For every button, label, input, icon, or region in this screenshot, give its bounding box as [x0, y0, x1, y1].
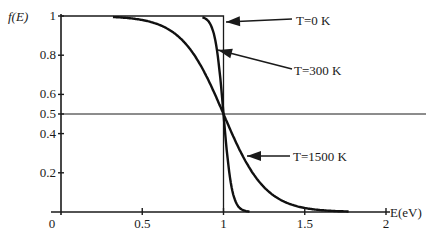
y-tick-label: 0.2	[40, 165, 56, 180]
y-axis-label: f(E)	[8, 9, 28, 24]
y-tick-label: 1	[50, 8, 57, 23]
arrow-t0-arrowhead-icon	[226, 16, 240, 26]
y-tick-label: 0.4	[40, 126, 57, 141]
x-tick-label: 0	[49, 216, 56, 231]
x-tick-label: 2	[383, 216, 390, 231]
x-axis-label: E(eV)	[390, 205, 422, 220]
annotation-t1500: T=1500 K	[293, 149, 348, 164]
annotation-t0: T=0 K	[296, 13, 331, 28]
annotation-t300: T=300 K	[294, 63, 342, 78]
x-tick-label: 1.5	[297, 216, 313, 231]
y-tick-label: 0.8	[40, 47, 56, 62]
arrow-t1500-arrowhead-icon	[247, 151, 261, 161]
fermi-dirac-chart: 0.20.40.50.60.8100.511.52 T=0 KT=300 KT=…	[0, 0, 444, 240]
arrow-t300-arrowhead-icon	[218, 49, 233, 59]
reference-lines	[61, 16, 426, 212]
x-tick-label: 1	[220, 216, 227, 231]
x-tick-label: 0.5	[134, 216, 150, 231]
y-tick-label: 0.6	[40, 86, 57, 101]
annotations: T=0 KT=300 KT=1500 K	[218, 13, 348, 164]
y-tick-label: 0.5	[40, 106, 56, 121]
